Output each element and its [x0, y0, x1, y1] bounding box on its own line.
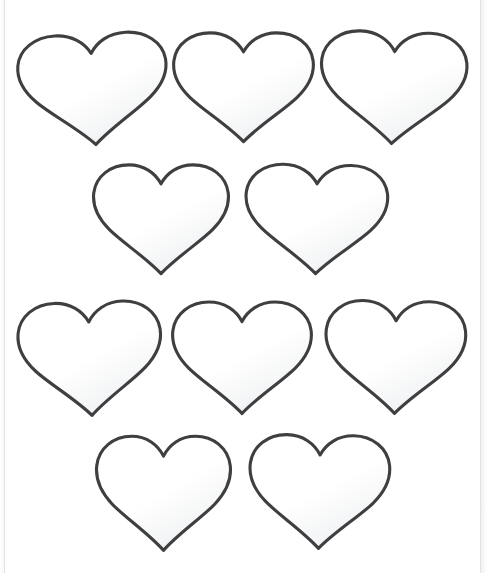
heart-svg	[316, 20, 471, 152]
paper-left-shadow	[0, 0, 5, 573]
heart-svg	[246, 425, 393, 557]
heart-svg	[94, 427, 233, 557]
heart-path	[249, 434, 391, 550]
heart-path	[94, 165, 229, 274]
heart-path	[319, 30, 468, 146]
heart-outline-3-3	[322, 291, 469, 422]
heart-outline-1-1	[13, 21, 173, 155]
heart-outline-2-2	[242, 155, 391, 282]
heart-path	[17, 300, 163, 418]
heart-svg	[91, 156, 231, 280]
heart-path	[173, 302, 312, 413]
worksheet-page: HEART TEMPLATES	[0, 0, 487, 573]
heart-svg	[242, 155, 391, 282]
heart-path	[97, 436, 231, 550]
heart-outline-2-1	[91, 156, 231, 280]
heart-outline-4-1	[94, 427, 233, 557]
heart-svg	[322, 291, 469, 422]
heart-path	[174, 33, 314, 142]
heart-path	[325, 300, 467, 415]
heart-outline-3-2	[170, 293, 314, 420]
heart-path	[245, 164, 389, 275]
paper-right-shadow	[481, 0, 487, 573]
heart-outline-3-1	[14, 290, 166, 424]
heart-outline-1-2	[171, 24, 316, 148]
heart-svg	[170, 293, 314, 420]
heart-svg	[14, 290, 166, 424]
heart-svg	[171, 24, 316, 148]
heart-svg	[13, 21, 173, 155]
heart-path	[16, 30, 170, 148]
heart-outline-4-2	[246, 425, 393, 557]
heart-outline-1-3	[316, 20, 471, 152]
